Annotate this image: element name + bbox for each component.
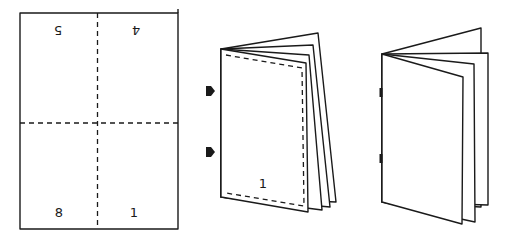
finished-front-cover — [382, 54, 463, 224]
page-number-bottom-right: 1 — [130, 205, 138, 220]
staple-top-icon — [380, 88, 383, 97]
staple-bottom-icon — [380, 154, 383, 163]
folded-booklet: 1 — [206, 33, 336, 212]
booklet-diagram: 5 4 8 1 1 — [0, 0, 506, 241]
page-number-top-left: 5 — [54, 23, 62, 38]
sheet-outline — [20, 13, 178, 229]
cover-page-number: 1 — [259, 176, 267, 191]
staple-arrow-top — [206, 86, 215, 96]
staple-arrow-bottom — [206, 147, 215, 157]
page-number-bottom-left: 8 — [55, 205, 63, 220]
flat-sheet: 5 4 8 1 — [20, 9, 178, 229]
page-number-top-right: 4 — [132, 23, 140, 38]
finished-booklet — [380, 28, 489, 224]
